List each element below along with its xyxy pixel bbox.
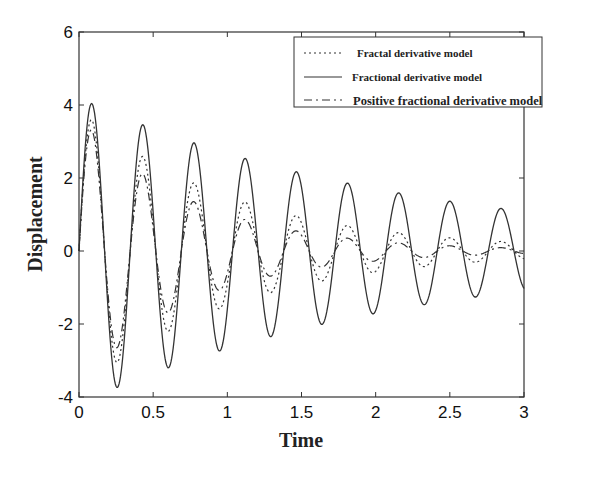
x-tick-label: 3 bbox=[519, 403, 528, 422]
series-line-dotted bbox=[79, 120, 524, 363]
y-tick-label: 0 bbox=[64, 242, 73, 261]
y-tick-label: -2 bbox=[58, 315, 73, 334]
y-tick-label: -4 bbox=[58, 388, 73, 407]
x-tick-label: 2.5 bbox=[438, 403, 462, 422]
legend-label-positive-fractional: Positive fractional derivative model bbox=[353, 94, 543, 108]
displacement-chart: 00.511.522.53-4-20246 Time Displacement … bbox=[0, 0, 613, 480]
y-axis-label: Displacement bbox=[24, 156, 47, 272]
x-tick-label: 2 bbox=[371, 403, 380, 422]
x-tick-label: 0.5 bbox=[141, 403, 165, 422]
y-tick-label: 4 bbox=[64, 96, 73, 115]
y-tick-label: 2 bbox=[64, 169, 73, 188]
x-tick-label: 1.5 bbox=[290, 403, 314, 422]
legend-label-fractal: Fractal derivative model bbox=[357, 47, 472, 59]
series-line-solid bbox=[79, 103, 524, 387]
x-tick-label: 1 bbox=[223, 403, 232, 422]
legend: Fractal derivative model Fractional deri… bbox=[294, 37, 543, 108]
plot-curves bbox=[79, 103, 524, 387]
series-line-dashdot bbox=[79, 130, 524, 348]
x-tick-label: 0 bbox=[74, 403, 83, 422]
y-tick-label: 6 bbox=[64, 23, 73, 42]
legend-label-fractional: Fractional derivative model bbox=[352, 71, 482, 83]
x-axis-label: Time bbox=[279, 429, 323, 451]
